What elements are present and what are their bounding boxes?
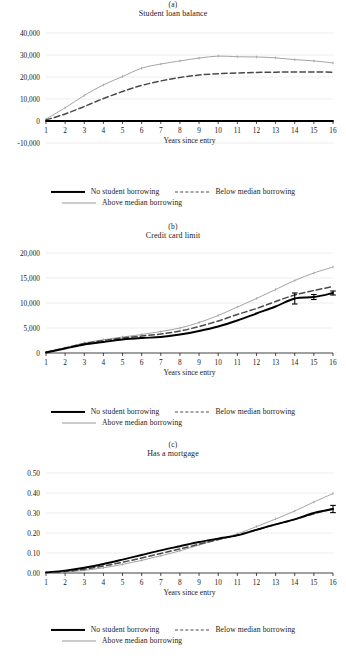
y-tick-label: 5,000	[24, 324, 41, 333]
legend-label-above-median-borrowing: Above median borrowing	[102, 417, 182, 428]
y-tick-label: -10,000	[18, 139, 41, 148]
panel-b-label: (b)	[0, 222, 346, 231]
x-tick-label: 1	[44, 578, 48, 587]
x-axis-label: Years since entry	[164, 588, 216, 597]
solid-gray-line-icon	[62, 636, 96, 646]
legend-label-below-median-borrowing: Below median borrowing	[215, 406, 295, 417]
y-tick-label: 40,000	[20, 29, 40, 38]
panel-c-label: (c)	[0, 440, 346, 449]
x-tick-label: 3	[82, 358, 86, 367]
x-tick-label: 7	[159, 358, 163, 367]
legend-label-below-median-borrowing: Below median borrowing	[215, 624, 295, 635]
x-tick-label: 8	[178, 126, 182, 135]
panel-c-plot: 0.000.100.200.300.400.501234567891011121…	[0, 459, 346, 622]
x-tick-label: 7	[159, 578, 163, 587]
x-tick-label: 9	[197, 578, 201, 587]
x-tick-label: 8	[178, 578, 182, 587]
series-line	[46, 509, 333, 573]
panel-a-legend: No student borrowing Below median borrow…	[0, 186, 346, 208]
y-tick-label: 10,000	[20, 299, 40, 308]
x-tick-label: 10	[215, 126, 223, 135]
series-line	[46, 287, 333, 353]
series-line	[46, 56, 333, 119]
legend-label-below-median-borrowing: Below median borrowing	[215, 186, 295, 197]
x-tick-label: 15	[310, 126, 318, 135]
panel-c-svg: 0.000.100.200.300.400.501234567891011121…	[0, 459, 346, 622]
dashed-line-icon	[175, 187, 209, 197]
legend-item-above-median-borrowing: Above median borrowing	[62, 635, 182, 646]
panel-b-legend: No student borrowing Below median borrow…	[0, 406, 346, 428]
x-tick-label: 3	[82, 578, 86, 587]
x-tick-label: 1	[44, 358, 48, 367]
panel-b-plot: 05,00010,00015,00020,0001234567891011121…	[0, 241, 346, 404]
dashed-line-icon	[175, 407, 209, 417]
x-tick-label: 16	[329, 578, 337, 587]
x-tick-label: 15	[310, 358, 318, 367]
series-line	[46, 509, 333, 572]
x-tick-label: 13	[272, 358, 280, 367]
y-tick-label: 20,000	[20, 249, 40, 258]
panel-student-loan-balance: (a) Student loan balance -10,000010,0002…	[0, 0, 346, 222]
x-tick-label: 14	[291, 578, 299, 587]
y-tick-label: 0	[36, 349, 40, 358]
dashed-line-icon	[175, 625, 209, 635]
x-tick-label: 3	[82, 126, 86, 135]
panel-a-svg: -10,000010,00020,00030,00040,00012345678…	[0, 19, 346, 184]
x-tick-label: 2	[63, 126, 67, 135]
y-tick-label: 30,000	[20, 51, 40, 60]
x-tick-label: 15	[310, 578, 318, 587]
solid-gray-line-icon	[62, 418, 96, 428]
y-tick-label: 0.30	[27, 509, 40, 518]
y-tick-label: 0.20	[27, 529, 40, 538]
y-tick-label: 0	[36, 117, 40, 126]
x-tick-label: 8	[178, 358, 182, 367]
legend-label-above-median-borrowing: Above median borrowing	[102, 635, 182, 646]
y-tick-label: 0.40	[27, 489, 40, 498]
legend-item-no-student-borrowing: No student borrowing	[51, 186, 160, 197]
x-tick-label: 14	[291, 358, 299, 367]
y-tick-label: 15,000	[20, 274, 40, 283]
legend-label-no-student-borrowing: No student borrowing	[91, 406, 160, 417]
legend-item-no-student-borrowing: No student borrowing	[51, 406, 160, 417]
x-tick-label: 12	[253, 358, 261, 367]
x-tick-label: 10	[215, 578, 223, 587]
x-tick-label: 2	[63, 578, 67, 587]
series-line	[46, 72, 333, 120]
x-tick-label: 11	[234, 578, 241, 587]
series-line	[46, 293, 333, 353]
y-tick-label: 0.50	[27, 469, 40, 478]
panel-a-title: Student loan balance	[0, 9, 346, 19]
panel-b-title: Credit card limit	[0, 231, 346, 241]
y-tick-label: 0.10	[27, 549, 40, 558]
y-tick-label: 10,000	[20, 95, 40, 104]
legend-label-no-student-borrowing: No student borrowing	[91, 624, 160, 635]
legend-item-above-median-borrowing: Above median borrowing	[62, 197, 182, 208]
solid-gray-line-icon	[62, 198, 96, 208]
x-tick-label: 16	[329, 358, 337, 367]
x-tick-label: 6	[140, 358, 144, 367]
x-tick-label: 9	[197, 358, 201, 367]
x-axis-label: Years since entry	[164, 368, 216, 377]
legend-item-below-median-borrowing: Below median borrowing	[175, 624, 295, 635]
panel-c-legend: No student borrowing Below median borrow…	[0, 624, 346, 646]
panel-has-a-mortgage: (c) Has a mortgage 0.000.100.200.300.400…	[0, 440, 346, 666]
x-tick-label: 5	[121, 126, 125, 135]
solid-black-line-icon	[51, 625, 85, 635]
x-tick-label: 11	[234, 358, 241, 367]
series-line	[46, 267, 333, 352]
x-tick-label: 5	[121, 358, 125, 367]
x-tick-label: 10	[215, 358, 223, 367]
x-tick-label: 13	[272, 126, 280, 135]
solid-black-line-icon	[51, 407, 85, 417]
panel-a-plot: -10,000010,00020,00030,00040,00012345678…	[0, 19, 346, 184]
legend-label-no-student-borrowing: No student borrowing	[91, 186, 160, 197]
x-tick-label: 12	[253, 126, 261, 135]
panel-b-svg: 05,00010,00015,00020,0001234567891011121…	[0, 241, 346, 404]
y-tick-label: 0.00	[27, 569, 40, 578]
x-tick-label: 4	[102, 578, 106, 587]
x-tick-label: 6	[140, 578, 144, 587]
x-tick-label: 11	[234, 126, 241, 135]
x-tick-label: 12	[253, 578, 261, 587]
x-tick-label: 14	[291, 126, 299, 135]
x-tick-label: 16	[329, 126, 337, 135]
